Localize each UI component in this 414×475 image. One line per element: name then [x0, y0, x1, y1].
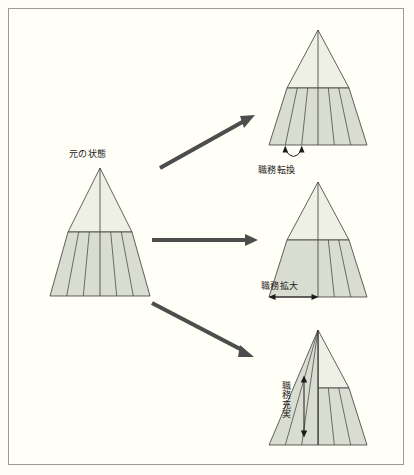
label-original-state: 元の状態 [69, 150, 106, 160]
label-job-enlargement: 職務拡大 [261, 282, 298, 292]
pyramid-enrichment-left [269, 330, 318, 445]
pyramid-job-enlargement [269, 182, 367, 297]
diagram-canvas [0, 0, 414, 475]
pyramid-job-rotation [269, 30, 367, 145]
pyramid-enrichment-upper [318, 330, 349, 388]
arrow-right-icon [152, 234, 258, 246]
label-job-rotation: 職務転換 [258, 166, 295, 176]
arrow-down-right-icon [152, 303, 254, 357]
diagram-page: 元の状態 職務転換 職務拡大 職務充実 [0, 0, 414, 475]
pyramid-enrichment-lower-right [318, 388, 367, 445]
curved-double-arrow-icon [283, 146, 305, 157]
arrow-up-right-icon [160, 115, 255, 168]
pyramid-original [50, 168, 150, 296]
label-job-enrichment: 職務充実 [281, 382, 292, 420]
